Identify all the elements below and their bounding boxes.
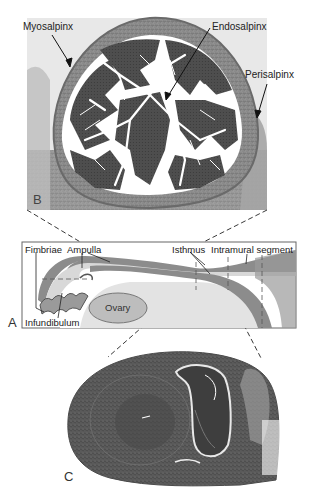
label-ovary: Ovary <box>105 303 130 313</box>
label-infundibulum: Infundibulum <box>25 318 79 328</box>
label-fimbriae: Fimbriae <box>25 245 62 255</box>
panel-letter-c: C <box>64 470 73 483</box>
panel-letter-a: A <box>8 316 17 329</box>
label-myosalpinx: Myosalpinx <box>23 22 73 32</box>
label-perisalpinx: Perisalpinx <box>245 70 294 80</box>
label-ampulla: Ampulla <box>67 245 101 255</box>
label-isthmus: Isthmus <box>172 245 205 255</box>
label-intramural-segment: Intramural segment <box>211 245 293 255</box>
label-endosalpinx: Endosalpinx <box>212 22 266 32</box>
panel-letter-b: B <box>33 193 42 206</box>
